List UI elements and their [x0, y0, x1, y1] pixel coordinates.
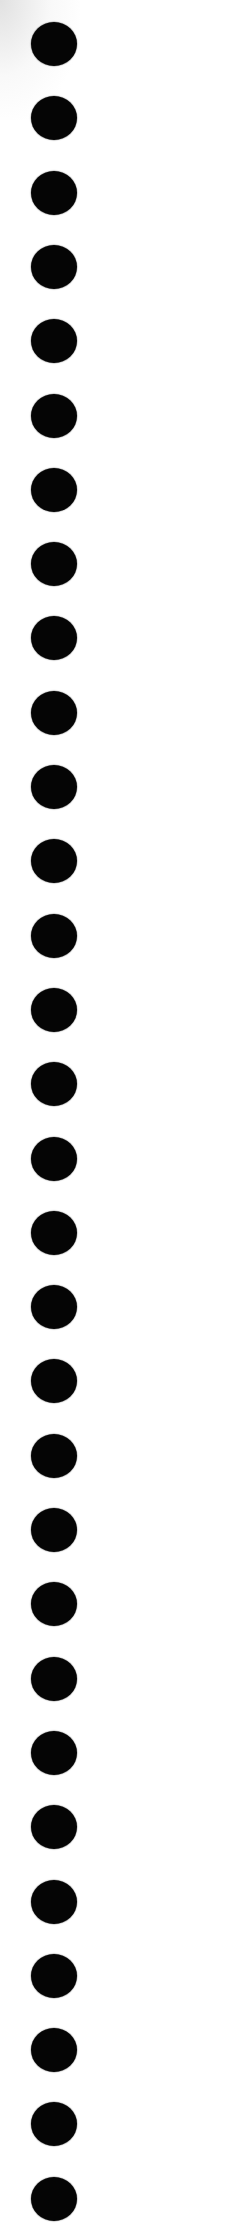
punch-hole: [31, 2028, 77, 2072]
punch-hole: [31, 1211, 77, 1255]
punch-hole: [31, 1731, 77, 1775]
punch-hole: [31, 1359, 77, 1403]
punch-hole: [31, 988, 77, 1032]
punch-hole: [31, 1137, 77, 1181]
punch-hole: [31, 2177, 77, 2221]
punch-hole: [31, 468, 77, 512]
punch-hole: [31, 1582, 77, 1626]
punch-hole: [31, 765, 77, 809]
punch-hole: [31, 319, 77, 363]
punch-hole: [31, 96, 77, 140]
punch-hole: [31, 394, 77, 438]
punch-hole: [31, 1508, 77, 1552]
punch-hole: [31, 245, 77, 289]
punch-hole: [31, 616, 77, 660]
punch-hole: [31, 1062, 77, 1106]
punch-hole: [31, 839, 77, 883]
punch-hole: [31, 171, 77, 215]
punch-hole: [31, 914, 77, 958]
punch-hole: [31, 1657, 77, 1701]
punch-hole: [31, 542, 77, 586]
punch-hole: [31, 1805, 77, 1849]
punch-hole: [31, 22, 77, 66]
punch-hole: [31, 2102, 77, 2146]
punch-hole-column: [0, 0, 225, 2240]
punch-hole: [31, 1285, 77, 1329]
punch-hole: [31, 1434, 77, 1478]
punch-hole: [31, 1954, 77, 1998]
punch-hole: [31, 691, 77, 735]
punch-hole: [31, 1880, 77, 1924]
